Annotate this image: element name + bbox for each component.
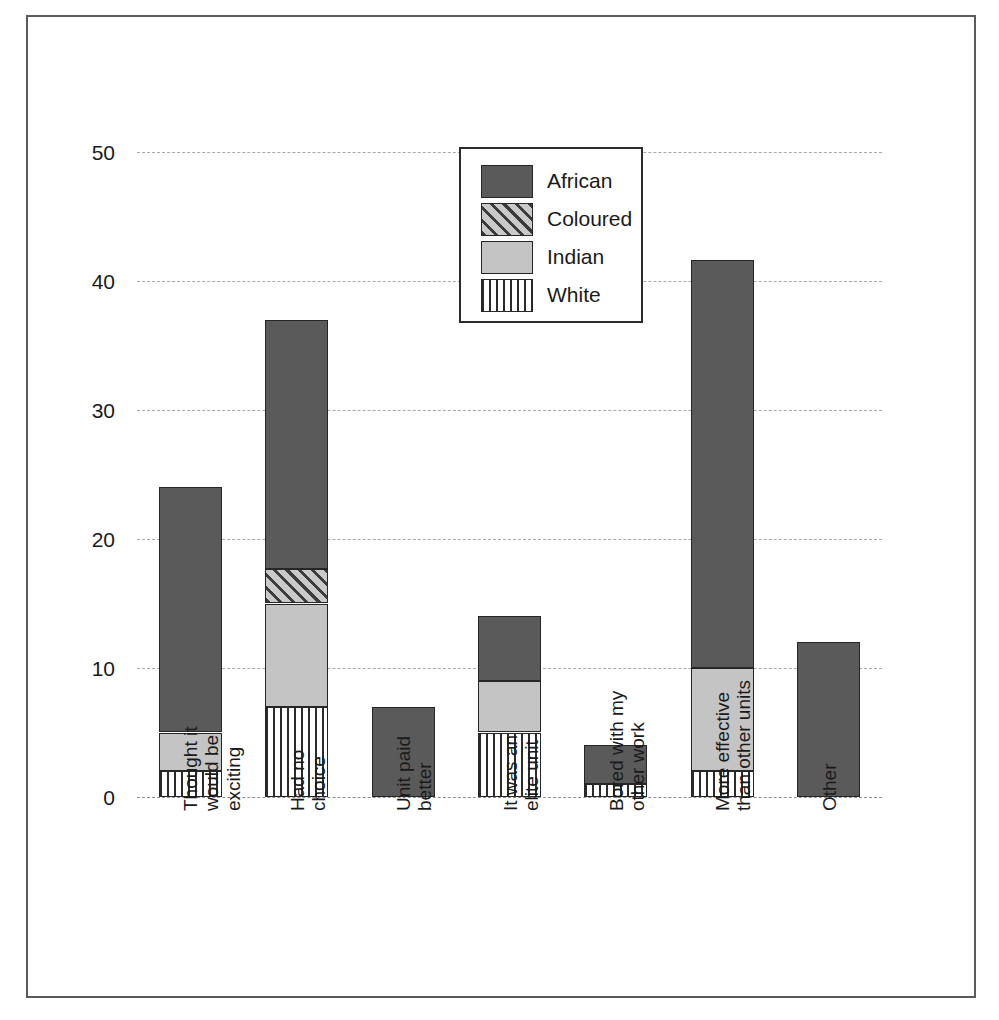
y-tick-label-40: 40: [92, 270, 115, 294]
y-tick-label-30: 30: [92, 399, 115, 423]
y-tick-label-10: 10: [92, 657, 115, 681]
figure-frame: 01020304050 Thought it would be exciting…: [26, 15, 976, 998]
x-category-label: Bored with my other work: [606, 691, 649, 811]
x-category-label: It was an elite unit: [500, 735, 543, 811]
bar-segment-indian[interactable]: [265, 604, 328, 707]
bar-group: More effective than other units: [691, 152, 754, 797]
bar-stack: [797, 152, 860, 797]
x-category-label: More effective than other units: [712, 680, 755, 811]
bar-group: Other: [797, 152, 860, 797]
bar-segment-indian[interactable]: [478, 681, 541, 733]
bar-segment-african[interactable]: [478, 616, 541, 681]
y-tick-label-50: 50: [92, 141, 115, 165]
bar-stack: [372, 152, 435, 797]
x-category-label: Other: [819, 763, 840, 811]
legend-label: Coloured: [547, 207, 632, 231]
bar-group: Thought it would be exciting: [159, 152, 222, 797]
bar-group: Had no choice: [265, 152, 328, 797]
bar-segment-african[interactable]: [265, 320, 328, 569]
legend-swatch-indian-icon: [481, 241, 533, 274]
x-category-label: Thought it would be exciting: [180, 727, 244, 812]
legend-item-indian[interactable]: Indian: [481, 238, 641, 276]
legend-swatch-white-icon: [481, 279, 533, 312]
legend-item-white[interactable]: White: [481, 276, 641, 314]
legend-label: White: [547, 283, 601, 307]
legend-swatch-coloured-icon: [481, 203, 533, 236]
chart-legend: AfricanColouredIndianWhite: [459, 147, 643, 323]
bar-stack: [159, 152, 222, 797]
bar-stack: [265, 152, 328, 797]
legend-swatch-african-icon: [481, 165, 533, 198]
x-category-label: Unit paid better: [393, 736, 436, 811]
bar-group: Unit paid better: [372, 152, 435, 797]
legend-label: Indian: [547, 245, 604, 269]
bar-segment-african[interactable]: [159, 487, 222, 732]
y-tick-label-20: 20: [92, 528, 115, 552]
legend-item-coloured[interactable]: Coloured: [481, 200, 641, 238]
legend-item-african[interactable]: African: [481, 162, 641, 200]
x-category-label: Had no choice: [287, 750, 330, 811]
legend-label: African: [547, 169, 612, 193]
y-tick-label-0: 0: [103, 786, 115, 810]
bar-segment-african[interactable]: [691, 260, 754, 668]
bar-segment-coloured[interactable]: [265, 569, 328, 604]
